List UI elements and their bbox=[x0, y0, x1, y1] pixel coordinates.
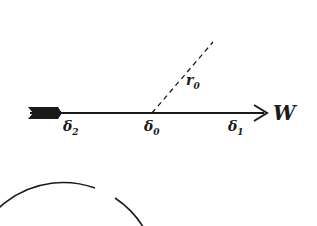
circle-arc bbox=[0, 182, 157, 226]
label-axis-w: W bbox=[273, 103, 295, 123]
label-delta2: δ2 bbox=[63, 119, 79, 137]
diagram-canvas bbox=[0, 0, 317, 226]
label-radius: r0 bbox=[186, 73, 200, 91]
label-delta0: δ0 bbox=[144, 119, 160, 137]
radius-line bbox=[152, 42, 213, 113]
label-delta1: δ1 bbox=[228, 119, 244, 137]
arrow-tail-icon bbox=[28, 107, 62, 119]
